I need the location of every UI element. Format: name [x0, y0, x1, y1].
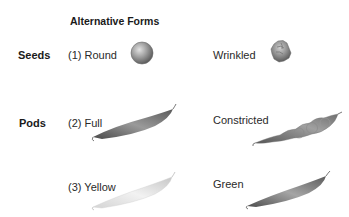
row-label-pods: Pods — [19, 117, 46, 129]
label-wrinkled: Wrinkled — [213, 49, 256, 61]
constricted-pod-icon — [250, 113, 345, 148]
header-title: Alternative Forms — [70, 15, 159, 27]
full-pod-icon — [90, 104, 180, 144]
row-label-seeds: Seeds — [18, 49, 50, 61]
label-round: (1) Round — [68, 49, 117, 61]
green-pod-icon — [244, 170, 334, 210]
label-green: Green — [213, 178, 244, 190]
yellow-pod-icon — [90, 171, 180, 211]
round-seed-icon — [130, 41, 154, 65]
wrinkled-seed-icon — [269, 39, 293, 65]
